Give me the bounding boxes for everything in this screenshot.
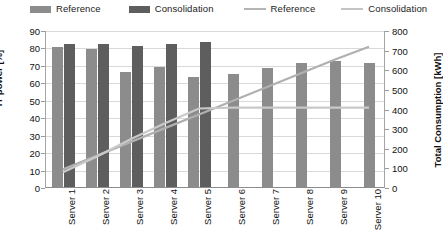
x-axis-tick-label: Server 5 [202, 189, 213, 225]
x-axis-tick-label: Server 6 [236, 189, 247, 225]
y-axis-left-tick-label: 60 [0, 78, 40, 89]
legend-item-consolidation-bar[interactable]: Consolidation [129, 4, 214, 14]
y-axis-left-tick-label: 70 [0, 60, 40, 71]
y-axis-right-tick-label: 300 [392, 124, 408, 135]
x-axis-tick-label: Server 8 [304, 189, 315, 225]
plot-area [45, 31, 385, 188]
legend-label: Consolidation [155, 4, 214, 14]
y-axis-right-tick-label: 200 [392, 143, 408, 154]
line-consolidation[interactable] [63, 108, 369, 173]
x-axis-tick-label: Server 9 [338, 189, 349, 225]
x-axis-tick-label: Server 3 [134, 189, 145, 225]
x-axis-tick-label: Server 2 [100, 189, 111, 225]
x-axis-tick-label: Server 4 [168, 189, 179, 225]
y-axis-left-tick-label: 50 [0, 95, 40, 106]
y-axis-right-tick-mark [385, 188, 389, 189]
y-axis-right-tick-label: 0 [392, 183, 397, 194]
legend-swatch-bar [30, 6, 51, 13]
y-axis-left-tick-label: 0 [0, 183, 40, 194]
x-axis-tick-label: Server 1 [66, 189, 77, 225]
y-axis-left-tick-label: 90 [0, 26, 40, 37]
y-axis-left-tick-label: 10 [0, 165, 40, 176]
legend-label: Reference [271, 4, 316, 14]
y-axis-left-tick-label: 30 [0, 130, 40, 141]
y-axis-right-title: Total Consumption [kWh] [432, 53, 443, 168]
y-axis-left-tick-label: 40 [0, 113, 40, 124]
x-axis-labels: Server 1Server 2Server 3Server 4Server 5… [45, 189, 385, 244]
legend-item-reference-bar[interactable]: Reference [30, 4, 101, 14]
y-axis-right-tick-label: 800 [392, 26, 408, 37]
y-axis-right-tick-label: 600 [392, 65, 408, 76]
y-axis-right-tick-label: 500 [392, 84, 408, 95]
legend-item-consolidation-line[interactable]: Consolidation [341, 4, 427, 14]
legend-label: Consolidation [368, 4, 427, 14]
legend-swatch-line [244, 8, 266, 10]
line-series-layer [46, 31, 386, 188]
y-axis-right-tick-label: 100 [392, 163, 408, 174]
y-axis-right-tick-label: 400 [392, 104, 408, 115]
y-axis-left-tick-label: 20 [0, 148, 40, 159]
x-axis-tick-label: Server 10 [372, 189, 383, 230]
legend-swatch-bar [129, 6, 150, 13]
chart-legend: Reference Consolidation Reference Consol… [0, 0, 440, 18]
x-axis-tick-label: Server 7 [270, 189, 281, 225]
y-axis-left-tick-label: 80 [0, 43, 40, 54]
legend-item-reference-line[interactable]: Reference [244, 4, 316, 14]
legend-label: Reference [56, 4, 101, 14]
y-axis-right-tick-label: 700 [392, 45, 408, 56]
legend-swatch-line [341, 8, 363, 10]
